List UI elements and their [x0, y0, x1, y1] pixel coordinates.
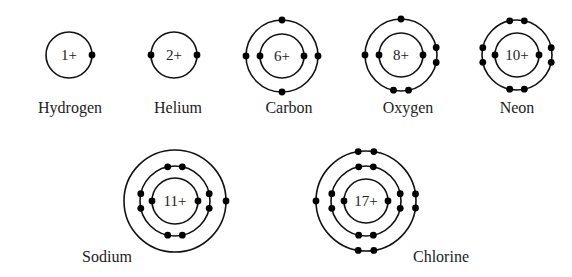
electron-dot — [279, 89, 286, 96]
electron-dot — [137, 190, 144, 197]
atom-name-label: Oxygen — [383, 99, 434, 117]
electron-dot — [548, 59, 555, 66]
electron-dot — [355, 247, 362, 254]
atom-helium: 2+Helium — [148, 32, 203, 116]
electron-dot — [397, 190, 404, 197]
nucleus-charge: 11+ — [164, 193, 187, 209]
electron-dot — [397, 205, 404, 212]
electron-dot — [355, 163, 362, 170]
electron-dot — [179, 232, 186, 239]
nucleus-charge: 8+ — [393, 47, 409, 63]
electron-dot — [548, 44, 555, 51]
electron-dot — [433, 59, 440, 66]
nucleus-charge: 2+ — [166, 47, 182, 63]
atom-sodium: 11+Sodium — [82, 150, 229, 265]
shell-diagram-canvas: 1+Hydrogen2+Helium6+Carbon8+Oxygen10+Neo… — [0, 0, 572, 277]
atom-chlorine: 17+Chlorine — [313, 148, 469, 265]
atom-name-label: Sodium — [82, 248, 132, 265]
atom-neon: 10+Neon — [479, 17, 554, 116]
electron-dot — [479, 44, 486, 51]
atom-carbon: 6+Carbon — [243, 17, 322, 116]
electron-dot — [164, 163, 171, 170]
electron-dot — [355, 232, 362, 239]
nucleus-charge: 10+ — [505, 47, 528, 63]
electron-dot — [370, 163, 377, 170]
electron-dot — [328, 205, 335, 212]
nucleus-charge: 1+ — [61, 47, 77, 63]
electron-dot — [506, 86, 513, 93]
atom-oxygen: 8+Oxygen — [362, 16, 440, 117]
electron-dot — [315, 53, 322, 60]
atom-name-label: Neon — [500, 99, 535, 116]
electron-dot — [492, 52, 499, 59]
electron-dot — [362, 52, 369, 59]
atom-name-label: Helium — [154, 99, 203, 116]
electron-dot — [148, 52, 155, 59]
electron-dot — [521, 86, 528, 93]
nucleus-charge: 6+ — [274, 48, 290, 64]
electron-dot — [164, 232, 171, 239]
electron-dot — [370, 148, 377, 155]
electron-dot — [521, 17, 528, 24]
atom-name-label: Chlorine — [413, 248, 469, 265]
electron-dot — [206, 190, 213, 197]
atom-name-label: Carbon — [265, 99, 312, 116]
electron-dot — [206, 205, 213, 212]
electron-dot — [301, 53, 308, 60]
electron-dot — [390, 87, 397, 94]
electron-dot — [398, 16, 405, 23]
electron-dot — [137, 205, 144, 212]
nucleus-charge: 17+ — [354, 193, 377, 209]
electron-dot — [370, 247, 377, 254]
electron-dot — [223, 198, 230, 205]
electron-dot — [412, 205, 419, 212]
electron-dot — [506, 17, 513, 24]
electron-dot — [149, 198, 156, 205]
electron-dot — [405, 87, 412, 94]
electron-dot — [243, 53, 250, 60]
electron-dot — [420, 52, 427, 59]
electron-dot — [195, 198, 202, 205]
electron-dot — [433, 44, 440, 51]
electron-dot — [376, 52, 383, 59]
electron-dot — [355, 148, 362, 155]
electron-dot — [313, 198, 320, 205]
electron-dot — [385, 198, 392, 205]
electron-dot — [89, 52, 96, 59]
electron-dot — [412, 191, 419, 198]
electron-dot — [279, 17, 286, 24]
electron-dot — [194, 52, 201, 59]
electron-dot — [370, 232, 377, 239]
atom-hydrogen: 1+Hydrogen — [38, 32, 102, 117]
electron-dot — [536, 52, 543, 59]
electron-dot — [479, 59, 486, 66]
atom-name-label: Hydrogen — [38, 99, 102, 117]
electron-dot — [257, 53, 264, 60]
electron-dot — [341, 198, 348, 205]
electron-dot — [179, 163, 186, 170]
electron-dot — [328, 190, 335, 197]
